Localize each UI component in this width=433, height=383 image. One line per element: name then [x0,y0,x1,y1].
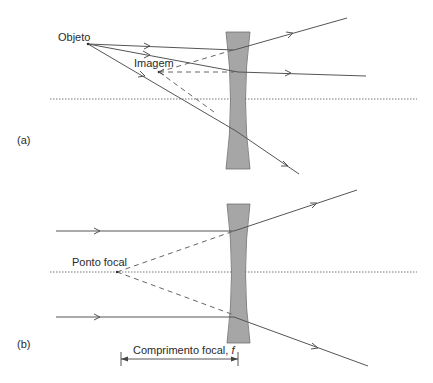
panel-b-label: (b) [17,338,30,350]
panel-b: Ponto focal (b) Comprimento focal, f [17,190,417,366]
focal-point [116,271,118,273]
ray-a1 [88,18,347,50]
diverging-lens-b [227,204,250,343]
arrowhead-right-icon [231,357,238,362]
panel-a: Objeto Imagem (a) [17,18,417,174]
object-point [87,43,90,46]
focal-length-text: Comprimento focal, [133,344,231,356]
focal-length-label: Comprimento focal, f [133,344,235,356]
panel-a-label: (a) [17,134,30,146]
ray-a2 [88,44,366,76]
image-label: Imagem [134,57,174,69]
virtual-ray-a3 [159,72,214,112]
ray-b1 [56,190,357,231]
virtual-ray-b1 [117,231,234,272]
diverging-lens-diagram: Objeto Imagem (a) Ponto focal (b) Compri… [0,0,433,383]
virtual-ray-b2 [117,272,234,315]
diverging-lens-a [226,32,250,169]
object-label: Objeto [58,31,90,43]
focal-length-symbol: f [231,344,235,356]
arrowhead-left-icon [121,357,128,362]
focal-point-label: Ponto focal [72,256,127,268]
